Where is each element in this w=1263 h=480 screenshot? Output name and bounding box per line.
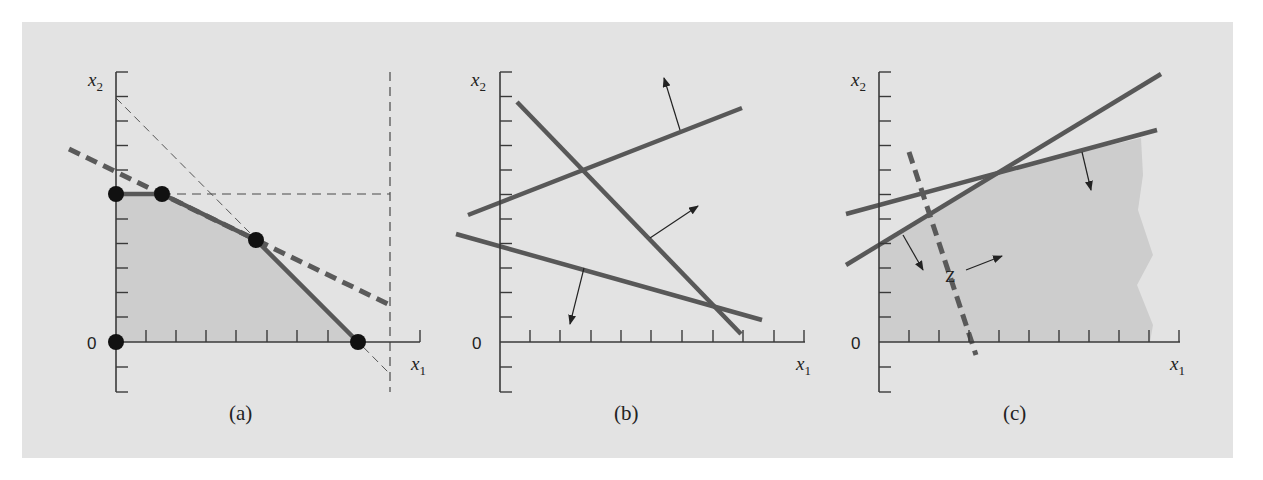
feasible-direction-arrow-icon bbox=[664, 78, 680, 130]
panel-caption-a: (a) bbox=[229, 401, 252, 425]
lp-figure: x2 x1 0 (a) bbox=[0, 0, 1263, 480]
panel-caption-b: (b) bbox=[614, 401, 639, 425]
vertex bbox=[108, 186, 124, 202]
constraint-line-2 bbox=[517, 102, 741, 334]
vertex-origin bbox=[108, 334, 124, 350]
feasible-region bbox=[116, 194, 358, 342]
panel-a: x2 x1 0 (a) bbox=[69, 69, 426, 425]
feasible-direction-arrow-icon bbox=[570, 268, 584, 324]
x-axis-label: x1 bbox=[410, 353, 426, 378]
y-axis-label: x2 bbox=[470, 69, 486, 94]
feasible-direction-arrow-icon bbox=[650, 206, 698, 238]
panel-b: x2 x1 0 (b) bbox=[456, 69, 811, 425]
origin-label: 0 bbox=[472, 334, 481, 353]
objective-label: Z bbox=[945, 267, 955, 286]
y-axis-label: x2 bbox=[87, 69, 103, 94]
origin-label: 0 bbox=[851, 334, 860, 353]
origin-label: 0 bbox=[87, 334, 96, 353]
y-ticks bbox=[500, 72, 512, 392]
x-axis-label: x1 bbox=[1169, 353, 1185, 378]
vertex bbox=[350, 334, 366, 350]
constraint-line-1 bbox=[468, 108, 742, 215]
panel-caption-c: (c) bbox=[1003, 401, 1026, 425]
x-ticks bbox=[530, 330, 804, 342]
constraint-line-3 bbox=[456, 234, 762, 320]
y-axis-label: x2 bbox=[850, 69, 866, 94]
vertex-optimum bbox=[248, 232, 264, 248]
y-ticks bbox=[879, 72, 891, 392]
panel-c: Z bbox=[846, 69, 1185, 425]
x-axis-label: x1 bbox=[795, 353, 811, 378]
vertex bbox=[154, 186, 170, 202]
